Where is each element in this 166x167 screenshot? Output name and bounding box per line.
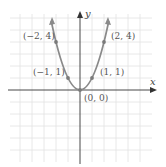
point-label: (2, 4) xyxy=(111,31,135,41)
parabola-graph: x y (−2, 4) (2, 4) (−1, 1) (1, 1) (0, 0) xyxy=(0,0,166,167)
point-label: (−1, 1) xyxy=(33,67,65,77)
point-label: (−2, 4) xyxy=(23,31,55,41)
point-label: (1, 1) xyxy=(100,67,124,77)
point-label: (0, 0) xyxy=(84,93,108,103)
y-axis-label: y xyxy=(84,8,91,19)
y-axis-arrow-icon xyxy=(77,11,83,18)
x-axis-arrow-icon xyxy=(150,87,157,93)
x-axis-label: x xyxy=(150,76,156,87)
